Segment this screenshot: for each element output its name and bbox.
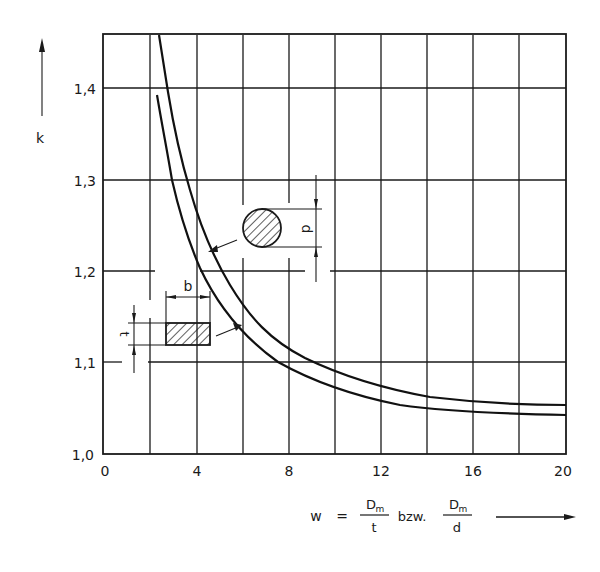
y-axis-arrow-icon <box>39 38 45 116</box>
curve-rectangular-wire <box>157 95 566 415</box>
rectangular-wire-cross-section <box>128 291 242 373</box>
svg-text:m: m <box>376 504 385 514</box>
svg-text:t: t <box>371 520 376 535</box>
svg-text:1,0: 1,0 <box>72 447 94 463</box>
dim-label-b: b <box>184 278 193 294</box>
svg-text:16: 16 <box>464 463 482 479</box>
dim-label-t: t <box>117 331 132 336</box>
svg-text:12: 12 <box>372 463 390 479</box>
svg-text:1,4: 1,4 <box>74 81 96 97</box>
x-axis-label: w = D m t bzw. D m d <box>310 497 472 535</box>
svg-text:4: 4 <box>193 463 202 479</box>
svg-text:0: 0 <box>101 463 110 479</box>
y-tick-labels: 1,4 1,3 1,2 1,1 1,0 <box>72 81 96 463</box>
svg-text:1,1: 1,1 <box>74 355 96 371</box>
svg-text:1,2: 1,2 <box>74 264 96 280</box>
svg-text:D: D <box>449 497 459 512</box>
svg-text:20: 20 <box>554 463 572 479</box>
svg-text:bzw.: bzw. <box>398 509 427 524</box>
svg-text:1,3: 1,3 <box>74 173 96 189</box>
x-axis-arrow-icon <box>496 514 576 520</box>
y-axis-label: k <box>36 130 45 146</box>
svg-text:d: d <box>453 520 461 535</box>
svg-text:m: m <box>459 504 468 514</box>
svg-text:D: D <box>366 497 376 512</box>
svg-text:=: = <box>336 508 348 524</box>
chart: k d <box>0 0 600 572</box>
x-gridlines <box>150 35 519 454</box>
svg-text:8: 8 <box>285 463 294 479</box>
curve-round-wire <box>159 35 566 405</box>
svg-text:w: w <box>310 508 321 524</box>
dim-label-d: d <box>299 225 315 234</box>
x-tick-labels: 0 4 8 12 16 20 <box>101 463 572 479</box>
